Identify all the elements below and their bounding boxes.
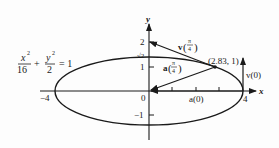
v0-label: v(0) <box>246 70 261 80</box>
v-pi4-label: v ( π 4 ) <box>178 38 198 54</box>
eq-plus: + <box>34 58 40 69</box>
y-ticks <box>149 42 154 115</box>
x-tick-4: 4 <box>243 94 248 104</box>
y-axis-label: y <box>145 14 151 24</box>
eq-x-den: 16 <box>17 64 27 75</box>
a-pi4-label: a ( π 4 ) <box>163 60 182 75</box>
eq-y-exp: 2 <box>52 50 55 56</box>
eq-rhs: = 1 <box>59 58 72 69</box>
svg-text:π: π <box>172 60 175 66</box>
ellipse-equation: x 2 16 + y 2 2 = 1 <box>17 50 72 75</box>
svg-text:): ) <box>178 62 182 75</box>
x-tick-neg4: −4 <box>40 93 50 103</box>
acceleration-vector-pi4 <box>151 67 215 90</box>
svg-text:(: ( <box>183 41 187 54</box>
y-tick-sqrt2: √2 <box>137 52 145 60</box>
svg-text:): ) <box>194 41 198 54</box>
svg-text:4: 4 <box>188 46 191 52</box>
eq-x-exp: 2 <box>27 50 30 56</box>
eq-y-num: y <box>45 52 51 63</box>
point-label: (2.83, 1) <box>208 56 239 66</box>
svg-text:4: 4 <box>172 68 175 74</box>
eq-x-num: x <box>20 52 26 63</box>
a0-label: a(0) <box>189 94 204 104</box>
eq-y-den: 2 <box>47 64 52 75</box>
ellipse-motion-diagram: x 2 16 + y 2 2 = 1 y x 0 −4 4 2 √2 1 −1 … <box>0 0 279 148</box>
diagram-canvas: x 2 16 + y 2 2 = 1 y x 0 −4 4 2 √2 1 −1 … <box>0 0 279 148</box>
y-tick-1: 1 <box>140 62 145 72</box>
origin-label: 0 <box>141 93 146 103</box>
svg-text:π: π <box>188 38 191 44</box>
y-tick-neg1: −1 <box>134 110 144 120</box>
y-tick-2: 2 <box>140 37 145 47</box>
x-axis-label: x <box>258 86 264 96</box>
